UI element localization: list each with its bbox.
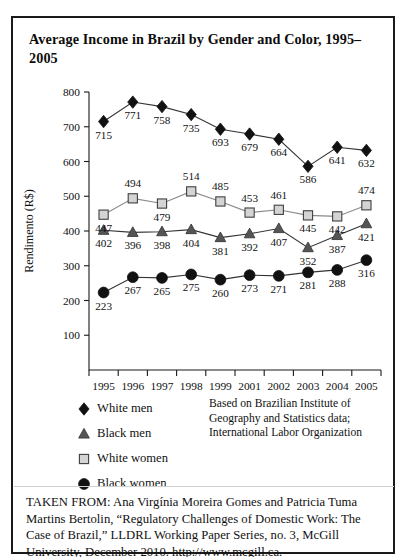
- data-label: 267: [124, 284, 141, 296]
- data-label: 474: [358, 184, 375, 196]
- data-label: 281: [300, 279, 317, 291]
- y-tick-label: 600: [63, 156, 80, 168]
- x-tick-label: 2003: [297, 380, 320, 390]
- data-label: 715: [95, 129, 112, 141]
- square-marker: [128, 194, 137, 203]
- data-label: 479: [154, 211, 171, 223]
- data-label: 664: [270, 146, 287, 158]
- x-tick-label: 2001: [238, 380, 261, 390]
- triangle-marker: [303, 242, 314, 252]
- circle-marker: [186, 269, 197, 280]
- data-label: 442: [329, 223, 346, 235]
- figure-container: Average Income in Brazil by Gender and C…: [11, 16, 395, 554]
- circle-marker: [244, 270, 255, 281]
- diamond-marker: [215, 123, 225, 135]
- x-tick-label: 2002: [267, 380, 290, 390]
- square-marker: [303, 211, 312, 220]
- square-marker: [157, 199, 166, 208]
- data-label: 387: [329, 243, 346, 255]
- legend-item: Black men: [75, 421, 215, 446]
- legend-label: Black women: [97, 476, 167, 491]
- circle-marker: [215, 274, 226, 285]
- circle-marker: [157, 273, 168, 284]
- y-tick-label: 200: [63, 295, 80, 307]
- x-tick-label: 1999: [209, 380, 232, 390]
- data-label: 402: [95, 237, 112, 249]
- square-marker: [362, 201, 371, 210]
- square-marker: [274, 205, 283, 214]
- data-label: 453: [241, 192, 258, 204]
- y-tick-label: 100: [63, 329, 80, 341]
- square-marker: [187, 187, 196, 196]
- series-white-men: 715771758735693679664586641632: [95, 96, 375, 185]
- legend-item: Black women: [75, 471, 215, 496]
- x-tick-label: 1996: [121, 380, 144, 390]
- diamond-marker: [303, 160, 313, 172]
- circle-marker: [79, 478, 90, 489]
- source-note: Based on Brazilian Institute of Geograph…: [209, 397, 389, 441]
- data-label: 316: [358, 267, 375, 279]
- y-axis-title: Rendimento (R$): [22, 189, 36, 273]
- circle-marker: [303, 267, 314, 278]
- x-tick-label: 1995: [92, 380, 115, 390]
- y-tick-label: 300: [63, 260, 80, 272]
- chart-plot-area: 100200300400500600700800Rendimento (R$)1…: [13, 80, 393, 390]
- square-marker: [99, 210, 108, 219]
- income-line-chart: 100200300400500600700800Rendimento (R$)1…: [13, 80, 393, 390]
- data-label: 273: [241, 282, 258, 294]
- data-label: 632: [358, 157, 375, 169]
- data-label: 392: [241, 241, 258, 253]
- triangle-marker: [273, 223, 284, 233]
- diamond-marker: [186, 108, 196, 120]
- series-black-women: 223267265275260273271281288316: [95, 255, 375, 312]
- chart-legend: White menBlack menWhite womenBlack women: [75, 396, 215, 496]
- data-label: 396: [124, 239, 141, 251]
- data-label: 275: [183, 281, 200, 293]
- data-label: 758: [154, 114, 171, 126]
- legend-item: White men: [75, 396, 215, 421]
- diamond-marker: [361, 144, 371, 156]
- legend-item: White women: [75, 446, 215, 471]
- data-label: 421: [358, 231, 375, 243]
- diamond-marker: [99, 115, 109, 127]
- data-label: 586: [300, 173, 317, 185]
- data-label: 271: [270, 283, 287, 295]
- series-white-women: 447494479514485453461445442474: [95, 170, 375, 235]
- x-tick-label: 2004: [326, 380, 349, 390]
- y-tick-label: 800: [63, 86, 80, 98]
- data-label: 398: [154, 239, 171, 251]
- figure-title: Average Income in Brazil by Gender and C…: [29, 30, 369, 68]
- y-tick-label: 400: [63, 225, 80, 237]
- data-label: 404: [183, 237, 200, 249]
- data-label: 693: [212, 136, 229, 148]
- triangle-marker: [75, 426, 93, 442]
- x-tick-label: 2005: [355, 380, 378, 390]
- circle-marker: [273, 270, 284, 281]
- legend-label: White women: [97, 451, 168, 466]
- data-label: 381: [212, 245, 229, 257]
- square-marker: [245, 208, 254, 217]
- diamond-marker: [245, 128, 255, 140]
- data-label: 514: [183, 170, 200, 182]
- y-tick-label: 500: [63, 190, 80, 202]
- square-marker: [333, 212, 342, 221]
- data-label: 771: [124, 109, 141, 121]
- diamond-marker: [274, 133, 284, 145]
- data-label: 260: [212, 287, 229, 299]
- legend-label: White men: [97, 401, 153, 416]
- legend-label: Black men: [97, 426, 151, 441]
- data-label: 223: [95, 300, 112, 312]
- triangle-marker: [361, 218, 372, 228]
- circle-marker: [75, 476, 93, 492]
- data-label: 265: [154, 285, 171, 297]
- series-line: [104, 260, 367, 292]
- data-label: 494: [124, 177, 141, 189]
- series-line: [104, 191, 367, 216]
- series-line: [104, 224, 367, 248]
- data-label: 407: [270, 236, 287, 248]
- data-label: 735: [183, 122, 200, 134]
- data-label: 461: [270, 189, 287, 201]
- data-label: 641: [329, 154, 346, 166]
- triangle-marker: [186, 224, 197, 234]
- diamond-marker: [79, 402, 89, 414]
